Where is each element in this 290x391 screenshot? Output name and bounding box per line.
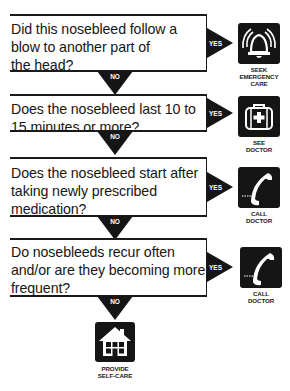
house-icon — [95, 322, 135, 362]
label-line: SEE — [229, 139, 289, 146]
question-text-4: Do nosebleeds recur often and/or are the… — [11, 243, 207, 297]
question-line: blow to another part of — [11, 38, 207, 56]
bell-alarm-icon — [238, 23, 280, 64]
outcome-label-2: SEE DOCTOR — [229, 139, 289, 153]
question-text-1: Did this nosebleed follow a blow to anot… — [11, 20, 207, 74]
question-box-3: Does the nosebleed start after taking ne… — [10, 157, 207, 217]
label-line: DOCTOR — [231, 297, 290, 304]
label-line: CALL — [231, 290, 290, 297]
question-line: frequent? — [11, 279, 207, 297]
svg-text:NO: NO — [110, 298, 120, 305]
question-line: Does the nosebleed start after — [11, 164, 207, 182]
label-line: PROVIDE — [85, 365, 145, 372]
label-line: SELF-CARE — [85, 372, 145, 379]
label-line: CARE — [229, 80, 289, 87]
no-arrow-2: NO — [97, 131, 133, 155]
medical-bag-icon — [238, 96, 280, 137]
svg-text:NO: NO — [110, 133, 120, 140]
question-box-2: Does the nosebleed last 10 to 15 minutes… — [10, 94, 207, 132]
telephone-icon — [238, 167, 280, 208]
svg-text:NO: NO — [110, 73, 120, 80]
svg-text:YES: YES — [209, 40, 223, 47]
question-box-1: Did this nosebleed follow a blow to anot… — [10, 14, 207, 72]
question-line: taking newly prescribed — [11, 182, 207, 200]
final-label: PROVIDE SELF-CARE — [85, 365, 145, 379]
yes-arrow-1: YES — [207, 28, 233, 58]
outcome-label-4: CALL DOCTOR — [231, 290, 290, 304]
question-line: and/or are they becoming more — [11, 261, 207, 279]
yes-arrow-3: YES — [207, 172, 233, 202]
label-line: CALL — [229, 210, 289, 217]
svg-text:NO: NO — [110, 218, 120, 225]
question-line: Does the nosebleed last 10 to — [11, 100, 207, 118]
outcome-label-1: SEEK EMERGENCY CARE — [229, 66, 289, 88]
question-line: Did this nosebleed follow a — [11, 20, 207, 38]
label-line: SEEK — [229, 66, 289, 73]
question-text-3: Does the nosebleed start after taking ne… — [11, 164, 207, 218]
yes-arrow-4: YES — [207, 252, 233, 282]
outcome-label-3: CALL DOCTOR — [229, 210, 289, 224]
question-box-4: Do nosebleeds recur often and/or are the… — [10, 238, 207, 297]
label-line: DOCTOR — [229, 217, 289, 224]
svg-text:YES: YES — [209, 184, 223, 191]
no-arrow-4: NO — [97, 296, 133, 320]
yes-arrow-2: YES — [207, 98, 233, 128]
svg-text:YES: YES — [209, 110, 223, 117]
label-line: EMERGENCY — [229, 73, 289, 80]
svg-text:YES: YES — [209, 264, 223, 271]
no-arrow-1: NO — [97, 71, 133, 95]
no-arrow-3: NO — [97, 216, 133, 240]
question-line: Do nosebleeds recur often — [11, 243, 207, 261]
label-line: DOCTOR — [229, 146, 289, 153]
telephone-icon — [240, 247, 282, 288]
